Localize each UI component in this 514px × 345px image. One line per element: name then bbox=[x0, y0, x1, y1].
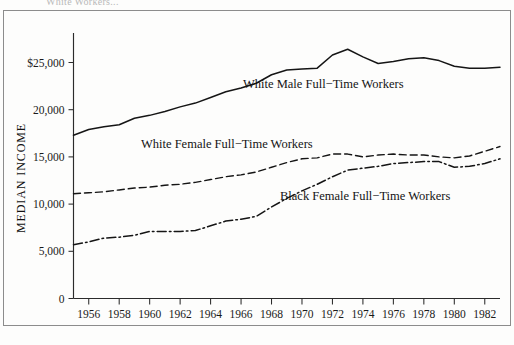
y-tick-label: 0 bbox=[59, 293, 65, 305]
x-tick-label: 1964 bbox=[199, 308, 222, 320]
x-axis-tick-labels: 1956195819601962196419661968197019721974… bbox=[77, 308, 496, 320]
x-tick-label: 1962 bbox=[169, 308, 192, 320]
y-tick-label: $25,000 bbox=[27, 57, 65, 70]
x-tick-label: 1980 bbox=[443, 308, 466, 320]
series-annotations: White Male Full−Time Workers White Femal… bbox=[141, 77, 450, 203]
y-tick-label: 15,000 bbox=[33, 151, 65, 164]
x-tick-label: 1978 bbox=[412, 308, 435, 320]
x-tick-label: 1958 bbox=[108, 308, 131, 320]
x-tick-label: 1974 bbox=[351, 308, 374, 320]
y-axis-title: MEDIAN INCOME bbox=[14, 123, 28, 233]
series-line-white-male bbox=[74, 49, 501, 135]
y-axis-ticks bbox=[69, 63, 74, 299]
x-tick-label: 1976 bbox=[382, 308, 405, 320]
x-tick-label: 1970 bbox=[290, 308, 313, 320]
y-tick-label: 20,000 bbox=[33, 104, 65, 117]
line-chart: 05,00010,00015,00020,000$25,000 19561958… bbox=[0, 0, 514, 345]
axes-group bbox=[69, 33, 501, 305]
x-tick-label: 1982 bbox=[473, 308, 496, 320]
y-axis-tick-labels: 05,00010,00015,00020,000$25,000 bbox=[27, 57, 65, 305]
series-line-white-female bbox=[74, 147, 501, 194]
x-tick-label: 1960 bbox=[138, 308, 161, 320]
figure-container: White Workers... 05,00010,00015,00020,00… bbox=[0, 0, 514, 345]
x-tick-label: 1956 bbox=[77, 308, 100, 320]
series-label-white-female: White Female Full−Time Workers bbox=[141, 137, 313, 151]
series-label-white-male: White Male Full−Time Workers bbox=[243, 77, 404, 91]
x-axis-ticks bbox=[89, 299, 485, 305]
y-tick-label: 5,000 bbox=[39, 245, 65, 258]
series-label-black-female: Black Female Full−Time Workers bbox=[280, 189, 450, 203]
x-tick-label: 1968 bbox=[260, 308, 283, 320]
x-tick-label: 1972 bbox=[321, 308, 344, 320]
y-tick-label: 10,000 bbox=[33, 198, 65, 211]
x-tick-label: 1966 bbox=[230, 308, 253, 320]
